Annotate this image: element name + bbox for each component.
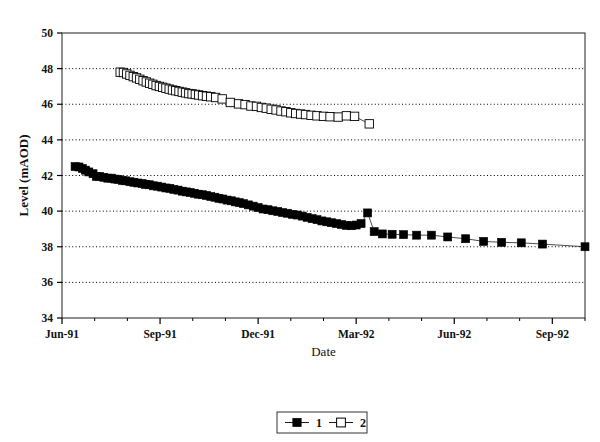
x-tick-label: Sep-91: [143, 328, 176, 341]
y-tick-label: 34: [42, 312, 54, 324]
x-axis-tick-labels: Jun-91Sep-91Dec-91Mar-92Jun-92Sep-92: [45, 328, 569, 341]
data-point-marker: [226, 98, 234, 106]
data-point-marker: [427, 231, 435, 239]
data-point-marker: [400, 231, 408, 239]
data-point-marker: [444, 233, 452, 241]
legend-marker: [337, 418, 346, 427]
series-line: [75, 167, 585, 247]
y-tick-label: 40: [42, 205, 54, 217]
x-tick-label: Jun-92: [437, 328, 471, 340]
data-point-marker: [462, 235, 470, 243]
legend-marker: [293, 418, 301, 426]
legend-label: 1: [316, 416, 322, 430]
data-point-marker: [498, 238, 506, 246]
y-tick-label: 48: [42, 63, 54, 75]
data-point-marker: [378, 230, 386, 238]
legend-label: 2: [360, 416, 366, 430]
y-tick-label: 50: [42, 27, 54, 39]
data-point-marker: [342, 112, 350, 120]
x-axis-title: Date: [311, 344, 336, 359]
y-tick-label: 36: [42, 276, 54, 288]
data-point-marker: [539, 240, 547, 248]
x-tick-label: Sep-92: [536, 328, 569, 341]
data-point-marker: [350, 112, 358, 120]
data-point-marker: [334, 113, 342, 121]
data-series-2: [116, 68, 373, 128]
data-point-marker: [364, 209, 372, 217]
chart-canvas: 343638404244464850 Jun-91Sep-91Dec-91Mar…: [0, 0, 600, 442]
y-tick-label: 46: [42, 98, 54, 110]
x-tick-label: Dec-91: [241, 328, 275, 340]
gridlines: [62, 69, 585, 283]
data-point-marker: [365, 120, 373, 128]
data-point-marker: [413, 231, 421, 239]
data-point-marker: [581, 243, 589, 251]
y-tick-label: 44: [42, 134, 54, 146]
chart-figure: 343638404244464850 Jun-91Sep-91Dec-91Mar…: [0, 0, 600, 442]
data-point-marker: [326, 113, 334, 121]
data-point-marker: [480, 237, 488, 245]
x-tick-label: Mar-92: [338, 328, 375, 340]
y-axis-title: Level (mAOD): [16, 135, 31, 217]
data-point-marker: [218, 95, 226, 103]
data-point-marker: [357, 220, 365, 228]
data-point-marker: [370, 228, 378, 236]
data-point-marker: [388, 230, 396, 238]
data-series-layer: [71, 68, 589, 251]
x-tick-label: Jun-91: [45, 328, 79, 340]
y-axis-tick-labels: 343638404244464850: [42, 27, 54, 324]
chart-legend: 12: [277, 412, 367, 433]
y-tick-label: 38: [42, 241, 54, 253]
data-point-marker: [517, 239, 525, 247]
axis-titles: DateLevel (mAOD): [16, 135, 336, 359]
y-tick-label: 42: [42, 170, 54, 182]
